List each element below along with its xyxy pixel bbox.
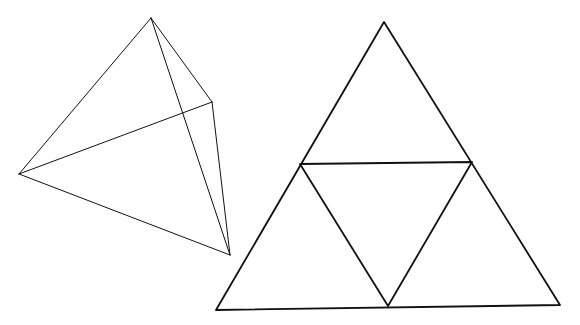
tetrahedron-edge-top-right <box>151 18 212 102</box>
net-inner-triangle <box>300 162 472 306</box>
tetrahedron-3d-view <box>19 18 230 255</box>
diagram-canvas <box>0 0 580 325</box>
tetrahedron-edge-right-left <box>19 102 212 174</box>
tetrahedron-edge-left-bottom <box>19 174 230 255</box>
tetrahedron-net <box>216 22 560 310</box>
tetrahedron-edge-right-bottom <box>212 102 230 255</box>
tetrahedron-edge-top-bottom <box>151 18 230 255</box>
net-outer-triangle <box>216 22 560 310</box>
tetrahedron-edge-top-left <box>19 18 151 174</box>
